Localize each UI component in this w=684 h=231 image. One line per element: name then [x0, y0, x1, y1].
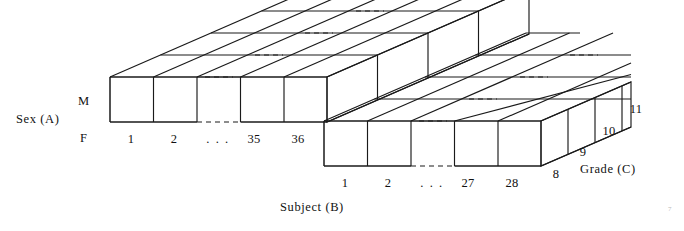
subject-tick-m-36: 36: [284, 132, 312, 147]
axis-label-subject: Subject (B): [280, 200, 344, 215]
level-label-female: F: [80, 131, 87, 146]
stray-mark: 7: [668, 205, 672, 213]
subject-tick-m-1: 1: [120, 132, 142, 147]
grade-tick-9: 9: [575, 145, 591, 160]
subject-tick-m-ellipsis: . . .: [203, 132, 233, 147]
female-top-colline-4: [498, 63, 631, 121]
axis-label-grade: Grade (C): [580, 162, 636, 177]
subject-tick-f-ellipsis: . . .: [417, 176, 447, 191]
subject-tick-f-28: 28: [498, 176, 526, 191]
axis-label-sex: Sex (A): [16, 112, 59, 127]
subject-tick-m-35: 35: [240, 132, 268, 147]
grade-tick-11: 11: [625, 102, 647, 117]
subject-tick-f-1: 1: [334, 176, 356, 191]
female-top-colline-3: [455, 75, 632, 122]
block-diagram-svg: .s { fill: none; stroke: #1a1a1a; stroke…: [0, 0, 684, 231]
male-slab: [110, 0, 529, 122]
level-label-male: M: [78, 94, 89, 109]
grade-tick-10: 10: [598, 124, 620, 139]
subject-tick-f-2: 2: [377, 176, 399, 191]
figure-root: .s { fill: none; stroke: #1a1a1a; stroke…: [0, 0, 684, 231]
grade-tick-8: 8: [548, 167, 564, 182]
subject-tick-m-2: 2: [163, 132, 185, 147]
subject-tick-f-27: 27: [454, 176, 482, 191]
